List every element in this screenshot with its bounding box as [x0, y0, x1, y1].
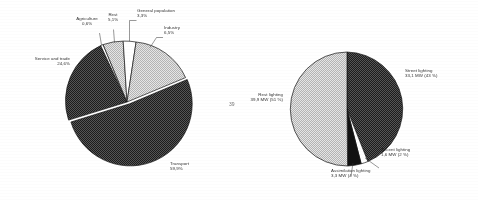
leader-line-agriculture — [100, 33, 102, 45]
label-service-and-trade: Service and trade 24,6% — [8, 56, 70, 67]
leader-line-rest — [114, 30, 115, 43]
pie-chart-lighting-power: Street lighting 33,1 MW (43 %) Rest ligh… — [239, 0, 478, 200]
pie-chart-electricity-by-sector: Service and trade 24,6% Agriculture 0,6%… — [0, 0, 239, 200]
pie-slice-rest-lighting — [290, 52, 347, 166]
label-general-population: General population 3,3% — [137, 8, 207, 19]
figure-two-pie-charts: Service and trade 24,6% Agriculture 0,6%… — [0, 0, 478, 200]
label-transport: Transport 59,9% — [170, 161, 218, 172]
label-street-lighting: Street lighting 33,1 MW (43 %) — [405, 68, 471, 79]
leader-line-general-population — [130, 21, 137, 42]
page-number: 39 — [229, 101, 235, 107]
label-industry: Industry 6,5% — [164, 25, 206, 36]
label-rest: Rest 5,1% — [99, 12, 127, 23]
label-assimilation-lighting: Assimilation lighting 3,3 MW (4 %) — [331, 168, 411, 179]
label-accent-lighting: Accent lighting 1,6 MW (2 %) — [381, 147, 443, 158]
